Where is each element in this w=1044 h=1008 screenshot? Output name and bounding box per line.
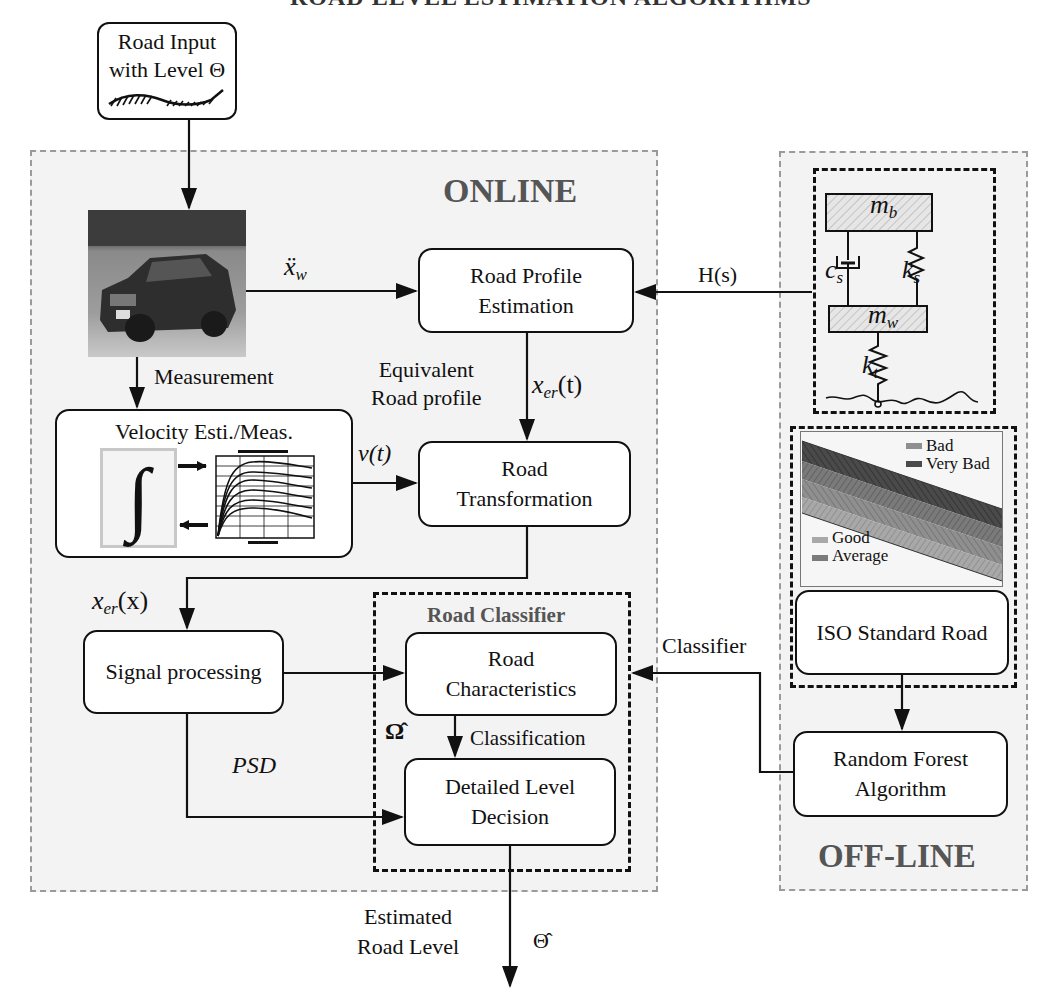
wheel-acceleration-label: ẍw [284,252,307,285]
road-characteristics-line2: Characteristics [446,674,577,704]
iso-standard-road-box: ISO Standard Road [795,590,1009,675]
road-transformation-box: Road Transformation [418,441,631,527]
velocity-mini-chart-icon [208,450,320,546]
iso-standard-road-label: ISO Standard Road [816,618,987,648]
road-profile-line1: Road Profile [470,261,582,291]
measurement-label: Measurement [154,364,274,390]
velocity-vt-label: v(t) [358,440,391,467]
signal-processing-label: Signal processing [106,657,262,687]
road-profile-line2: Estimation [478,291,573,321]
classification-label: Classification [470,726,585,751]
iso-legend-bad: Bad [926,436,953,456]
random-forest-line1: Random Forest [833,744,968,774]
theta-hat-label: Θ̂ [533,928,549,954]
omega-hat-label: Ω̂ [385,718,404,745]
iso-legend-average: Average [832,546,888,566]
spring-ks-label: ks [902,255,920,288]
mass-body-label: mb [870,190,897,223]
detailed-level-decision-box: Detailed Level Decision [404,758,616,846]
integral-icon: ∫ [127,457,149,539]
road-input-line2: with Level Θ [109,56,225,84]
integrator-block: ∫ [100,448,177,548]
velocity-title: Velocity Esti./Meas. [115,417,293,447]
road-characteristics-line1: Road [488,644,534,674]
signal-processing-box: Signal processing [83,630,284,714]
quarter-car-model-diagram [813,168,996,414]
mass-wheel-label: mw [868,300,898,333]
estimated-road-level-label: Estimated Road Level [357,902,459,962]
page-header-fragment: ROAD LEVEL ESTIMATION ALGORITHMS [290,0,812,11]
online-title: ONLINE [443,172,577,210]
detailed-level-line1: Detailed Level [445,772,575,802]
hs-label: H(s) [698,262,737,288]
equivalent-road-profile-label: Equivalent Road profile [371,356,482,412]
iso-legend-very-bad: Very Bad [926,454,990,474]
road-input-line1: Road Input [118,28,216,56]
road-classifier-title: Road Classifier [427,603,565,628]
iso-legend-good: Good [832,528,870,548]
random-forest-algorithm-box: Random Forest Algorithm [793,731,1008,817]
classifier-label: Classifier [662,633,746,659]
random-forest-line2: Algorithm [855,774,947,804]
tire-kt-label: kt [862,350,878,383]
road-profile-estimation-box: Road Profile Estimation [418,248,634,333]
xer-t-label: xer(t) [532,370,582,403]
vehicle-photo [88,210,246,357]
car-icon [88,210,246,357]
xer-x-label: xer(x) [92,586,148,619]
road-input-box: Road Input with Level Θ [97,22,237,120]
theta-symbol: Θ [209,57,225,82]
road-characteristics-box: Road Characteristics [405,632,617,716]
damper-cs-label: cs [825,255,843,288]
offline-title: OFF-LINE [818,838,976,875]
road-surface-icon [107,86,227,108]
road-transformation-line1: Road [501,454,547,484]
detailed-level-line2: Decision [471,802,549,832]
road-transformation-line2: Transformation [456,484,592,514]
psd-label: PSD [232,752,276,779]
